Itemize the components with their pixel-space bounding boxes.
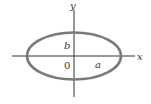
ellipse-diagram: y x b 0 a <box>0 0 151 104</box>
origin-label: 0 <box>64 60 70 71</box>
semi-major-label: a <box>95 59 101 70</box>
x-axis-label: x <box>137 51 143 62</box>
y-axis-label: y <box>69 0 76 11</box>
semi-minor-label: b <box>64 40 70 51</box>
